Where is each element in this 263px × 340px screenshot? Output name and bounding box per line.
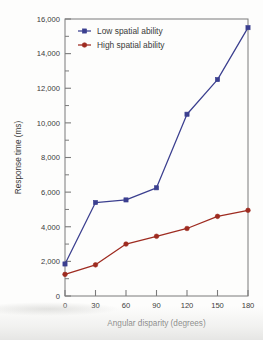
- y-axis-tick-label: 14,000: [37, 49, 60, 58]
- legend-label: High spatial ability: [97, 40, 165, 50]
- y-axis-tick-label: 12,000: [37, 84, 60, 93]
- chart-legend: Low spatial abilityHigh spatial ability: [78, 26, 165, 50]
- y-axis-title: Response time (ms): [14, 121, 23, 195]
- y-axis-tick-label: 8,000: [41, 153, 60, 162]
- data-point: [124, 198, 128, 202]
- y-axis-tick-label: 10,000: [37, 119, 60, 128]
- x-axis-title: Angular disparity (degrees): [107, 319, 206, 328]
- legend-marker-icon: [82, 43, 87, 48]
- y-axis-title-text: Response time (ms): [14, 121, 23, 195]
- y-axis: 02,0004,0006,0008,00010,00012,00014,0001…: [37, 15, 71, 301]
- data-point: [124, 242, 129, 247]
- data-point: [154, 234, 159, 239]
- legend-marker-icon: [82, 29, 86, 33]
- data-point: [185, 226, 190, 231]
- data-point: [63, 262, 67, 266]
- x-axis-tick-label: 60: [122, 301, 130, 310]
- data-point: [93, 263, 98, 268]
- series-1-low-spatial-ability: 0°: 1850 ms30°: 5400 ms60°: 5550 ms90°: …: [63, 26, 250, 267]
- x-axis-tick-label: 90: [152, 301, 160, 310]
- data-point: [246, 26, 250, 30]
- series-2-high-spatial-ability: 0°: 1250 ms30°: 1800 ms60°: 3000 ms90°: …: [63, 208, 251, 277]
- data-point: [63, 272, 68, 277]
- y-axis-tick-label: 6,000: [41, 188, 60, 197]
- x-axis-tick-label: 180: [242, 301, 255, 310]
- data-point: [154, 186, 158, 190]
- x-axis-tick-label: 150: [211, 301, 224, 310]
- chart-figure: 02,0004,0006,0008,00010,00012,00014,0001…: [0, 0, 263, 340]
- x-axis-tick-label: 0: [63, 301, 67, 310]
- y-axis-tick-label: 16,000: [37, 15, 60, 24]
- plot-frame: [65, 19, 248, 296]
- data-point: [215, 214, 220, 219]
- data-point: [185, 112, 189, 116]
- line-chart: 02,0004,0006,0008,00010,00012,00014,0001…: [0, 0, 263, 340]
- y-axis-tick-label: 0: [56, 292, 60, 301]
- x-axis: 0306090120150180: [63, 290, 254, 310]
- y-axis-tick-label: 2,000: [41, 257, 60, 266]
- legend-label: Low spatial ability: [97, 26, 163, 36]
- x-axis-tick-label: 120: [181, 301, 194, 310]
- data-point: [93, 200, 97, 204]
- data-point: [246, 208, 251, 213]
- series-line: [65, 210, 248, 274]
- series-line: [65, 28, 248, 264]
- x-axis-tick-label: 30: [91, 301, 99, 310]
- plot-area-border: [65, 19, 248, 296]
- y-axis-tick-label: 4,000: [41, 223, 60, 232]
- data-point: [215, 77, 219, 81]
- x-axis-title-text: Angular disparity (degrees): [107, 319, 206, 328]
